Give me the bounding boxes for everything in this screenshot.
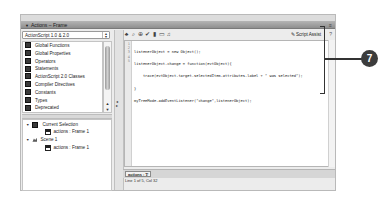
toolbox-item-as2-classes[interactable]: ActionScript 2.0 Classes bbox=[23, 73, 102, 81]
book-icon bbox=[25, 97, 31, 103]
toolbox-item-statements[interactable]: Statements bbox=[23, 65, 102, 73]
actions-toolbox-list: Global Functions Global Properties Opera… bbox=[22, 41, 103, 113]
line-number: 5 bbox=[125, 59, 130, 63]
toolbox-item-label: Operators bbox=[35, 59, 55, 64]
toolbox-item-label: Types bbox=[35, 98, 47, 103]
script-icon bbox=[45, 145, 51, 152]
debug-options-icon[interactable]: ♫ bbox=[165, 30, 172, 39]
toolbox-item-label: Compiler Directives bbox=[35, 82, 75, 87]
line-number-gutter: 1 2 3 4 5 bbox=[125, 41, 132, 166]
script-tabs-bar: actions : 1 ⇥ bbox=[123, 169, 335, 178]
toolbox-item-constants[interactable]: Constants bbox=[23, 89, 102, 97]
check-syntax-icon[interactable]: ✔ bbox=[144, 30, 151, 39]
book-icon bbox=[25, 81, 31, 87]
book-icon bbox=[25, 73, 31, 79]
add-statement-icon[interactable]: ♣ bbox=[123, 30, 130, 39]
scene-icon bbox=[32, 138, 37, 142]
actions-toolbox-pane: ActionScript 1.0 & 2.0 ▴▾ Global Functio… bbox=[21, 30, 114, 190]
select-arrows-icon: ▴▾ bbox=[102, 32, 109, 38]
book-icon bbox=[25, 58, 31, 64]
toolbox-item-label: Deprecated bbox=[35, 105, 59, 110]
language-version-select[interactable]: ActionScript 1.0 & 2.0 ▴▾ bbox=[22, 31, 110, 39]
script-toolbar: ♣⌕⊕✔▮▭♫ ✎ Script Assist ? bbox=[123, 30, 335, 39]
collapse-arrows-icon[interactable]: ◂▸ bbox=[116, 100, 118, 108]
book-icon bbox=[25, 50, 31, 56]
toolbox-item-compiler-directives[interactable]: Compiler Directives bbox=[23, 81, 102, 89]
scroll-up-arrow-icon[interactable]: ▲ bbox=[104, 101, 111, 106]
toolbox-item-types[interactable]: Types bbox=[23, 97, 102, 105]
toolbox-scrollbar[interactable]: ▲ ▼ bbox=[103, 41, 112, 113]
scroll-down-arrow-icon[interactable]: ▼ bbox=[104, 107, 111, 112]
script-pane: ♣⌕⊕✔▮▭♫ ✎ Script Assist ? 1 2 3 4 5 list… bbox=[123, 30, 335, 190]
code-line: myTreeMode.addEventListener("change",lis… bbox=[134, 99, 326, 103]
tree-node-label: actions : Frame 1 bbox=[54, 145, 90, 150]
auto-format-icon[interactable]: ▮ bbox=[151, 30, 158, 39]
tree-node-actions-frame-1[interactable]: actions : Frame 1 bbox=[45, 129, 89, 136]
find-icon[interactable]: ⌕ bbox=[130, 30, 137, 39]
toolbox-item-global-properties[interactable]: Global Properties bbox=[23, 50, 102, 58]
script-assist-label: Script Assist bbox=[296, 32, 321, 37]
code-line: trace(evtObject.target.selectedItem.attr… bbox=[134, 74, 326, 78]
toolbox-item-label: Global Properties bbox=[35, 51, 71, 56]
tree-node-scene-actions-frame-1[interactable]: actions : Frame 1 bbox=[45, 145, 89, 152]
tree-node-current-selection[interactable]: ▼Current Selection bbox=[26, 122, 78, 128]
book-icon bbox=[32, 122, 38, 128]
toolbox-item-global-functions[interactable]: Global Functions bbox=[23, 42, 102, 50]
toolbox-item-label: ActionScript 2.0 Classes bbox=[35, 74, 85, 79]
expand-triangle-icon[interactable]: ▼ bbox=[26, 123, 29, 127]
toolbox-item-data-components[interactable]: Data Components bbox=[23, 112, 102, 113]
tree-node-label: Scene 1 bbox=[40, 137, 57, 142]
actions-panel: ▼Actions – Frame ≡ ActionScript 1.0 & 2.… bbox=[20, 14, 336, 191]
status-line: Line 1 of 5, Col 32 bbox=[125, 178, 157, 183]
book-icon bbox=[25, 105, 31, 111]
book-icon bbox=[25, 89, 31, 95]
tree-node-scene-1[interactable]: ▼Scene 1 bbox=[26, 137, 57, 143]
toolbox-item-label: Constants bbox=[35, 90, 56, 95]
script-icon bbox=[45, 129, 51, 136]
script-editor[interactable]: 1 2 3 4 5 listenerObject = new Object();… bbox=[124, 40, 329, 167]
toolbox-item-deprecated[interactable]: Deprecated bbox=[23, 104, 102, 112]
help-icon[interactable]: ? bbox=[329, 30, 332, 39]
language-version-value: ActionScript 1.0 & 2.0 bbox=[25, 33, 69, 38]
code-line: listenerObject = new Object(); bbox=[134, 50, 326, 54]
toolbox-item-label: Global Functions bbox=[35, 43, 69, 48]
toolbox-item-label: Statements bbox=[35, 66, 58, 71]
script-assist-button[interactable]: ✎ Script Assist bbox=[291, 30, 321, 39]
code-line: } bbox=[134, 87, 326, 91]
callout-leader-line bbox=[325, 58, 363, 60]
code-text[interactable]: listenerObject = new Object(); listenerO… bbox=[134, 42, 326, 111]
panel-title: Actions – Frame bbox=[31, 22, 67, 28]
pin-script-icon[interactable]: ⇥ bbox=[145, 171, 148, 177]
script-navigator: ▼Current Selection actions : Frame 1 ▼Sc… bbox=[22, 119, 112, 191]
callout-badge: 7 bbox=[361, 50, 378, 67]
tree-node-label: Current Selection bbox=[42, 122, 78, 127]
panel-title-bar[interactable]: ▼Actions – Frame ≡ bbox=[21, 21, 335, 29]
tree-node-label: actions : Frame 1 bbox=[54, 129, 90, 134]
scrollbar-thumb[interactable] bbox=[105, 46, 110, 90]
target-path-icon[interactable]: ⊕ bbox=[137, 30, 144, 39]
code-line: listenerObject.change = function(evtObje… bbox=[134, 62, 326, 66]
code-hint-icon[interactable]: ▭ bbox=[158, 30, 165, 39]
expand-triangle-icon[interactable]: ▼ bbox=[26, 138, 29, 142]
toolbox-item-operators[interactable]: Operators bbox=[23, 58, 102, 66]
book-icon bbox=[25, 66, 31, 72]
collapse-triangle-icon[interactable]: ▼ bbox=[25, 23, 29, 28]
book-icon bbox=[25, 112, 31, 113]
callout-bracket bbox=[320, 26, 325, 94]
book-icon bbox=[25, 42, 31, 48]
panel-menu-icon[interactable]: ≡ bbox=[329, 21, 332, 29]
